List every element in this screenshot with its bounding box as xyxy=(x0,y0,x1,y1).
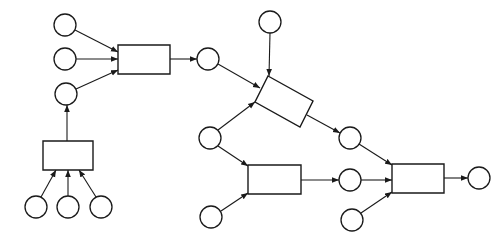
place-circle-p8 xyxy=(259,11,281,33)
place-circle-p2 xyxy=(54,48,76,70)
place-circle-p6 xyxy=(90,196,112,218)
place-circle-p4 xyxy=(25,196,47,218)
arc-p4-to-t2 xyxy=(41,170,56,197)
place-circle-p7 xyxy=(197,48,219,70)
arc-p10-to-t5 xyxy=(359,144,392,165)
place-circle-p11 xyxy=(200,206,222,228)
diagram-svg xyxy=(0,0,495,248)
network-diagram xyxy=(0,0,495,248)
transitions-layer xyxy=(43,45,444,194)
arc-t3-to-p10 xyxy=(307,115,340,133)
place-circle-p5 xyxy=(57,196,79,218)
places-layer xyxy=(25,11,490,231)
arc-p9-to-t4 xyxy=(218,146,248,166)
place-circle-p13 xyxy=(341,209,363,231)
arc-p9-to-t3 xyxy=(218,102,255,130)
place-circle-p14 xyxy=(468,167,490,189)
arc-p13-to-t5 xyxy=(361,192,392,213)
place-circle-p3 xyxy=(55,83,77,105)
transition-box-t4 xyxy=(248,165,301,194)
place-circle-p9 xyxy=(199,127,221,149)
place-circle-p10 xyxy=(339,127,361,149)
place-circle-p12 xyxy=(339,169,361,191)
arc-p1-to-t1 xyxy=(75,30,118,52)
arc-p3-to-t1 xyxy=(76,70,118,89)
transition-box-t1 xyxy=(118,45,170,74)
arc-p11-to-t4 xyxy=(221,193,248,211)
arc-p6-to-t2 xyxy=(79,170,96,197)
arc-p8-to-t3 xyxy=(269,33,270,76)
transition-box-t3 xyxy=(255,76,313,127)
transition-box-t2 xyxy=(43,141,93,170)
place-circle-p1 xyxy=(54,14,76,36)
transition-box-t5 xyxy=(392,164,444,193)
arc-p7-to-t3 xyxy=(218,64,260,88)
